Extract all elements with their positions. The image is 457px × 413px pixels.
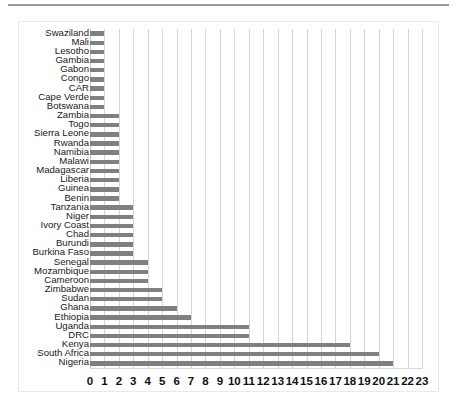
bar-row [90,233,422,237]
bar [90,242,133,246]
bar-row [90,205,422,209]
plot-area [90,29,422,368]
x-tick-label: 1 [101,374,107,388]
bar-row [90,224,422,228]
bar [90,114,119,118]
bar [90,160,119,164]
bar [90,96,104,100]
bar-row [90,77,422,81]
bar [90,196,119,200]
category-label: Nigeria [3,357,89,367]
bar-row [90,86,422,90]
x-tick-label: 7 [188,374,194,388]
bar-row [90,50,422,54]
bar [90,251,133,255]
bar [90,306,177,310]
bar [90,205,133,209]
bar-row [90,288,422,292]
bar-row [90,260,422,264]
bar [90,297,162,301]
bar [90,215,133,219]
x-tick-label: 22 [401,374,414,388]
bar-row [90,141,422,145]
x-tick-label: 17 [329,374,342,388]
bar [90,224,133,228]
bar [90,150,119,154]
x-tick-label: 15 [300,374,313,388]
x-tick-label: 12 [257,374,270,388]
bar-row [90,96,422,100]
bar-row [90,132,422,136]
bar [90,361,393,365]
bar [90,270,148,274]
bar-row [90,105,422,109]
bar-row [90,169,422,173]
x-tick-label: 20 [372,374,385,388]
bar-row [90,306,422,310]
bar [90,141,119,145]
bar [90,343,350,347]
x-tick-label: 14 [286,374,299,388]
x-tick-label: 4 [145,374,151,388]
category-axis-labels: SwazilandMaliLesothoGambiaGabonCongoCARC… [18,21,89,392]
bar-row [90,196,422,200]
bar-row [90,150,422,154]
x-tick-label: 9 [217,374,223,388]
bar [90,132,119,136]
x-tick-label: 11 [243,374,255,388]
bar [90,233,133,237]
bar [90,68,104,72]
bar [90,41,104,45]
x-tick-label: 18 [343,374,356,388]
bar-row [90,251,422,255]
bar-row [90,270,422,274]
bar-row [90,242,422,246]
bar-row [90,123,422,127]
axis-baseline [90,368,423,369]
bar [90,169,119,173]
bar-row [90,334,422,338]
bar [90,105,104,109]
x-tick-label: 19 [358,374,371,388]
bar [90,31,104,35]
bar [90,59,104,63]
bar [90,325,249,329]
bar-row [90,297,422,301]
x-tick-label: 3 [130,374,136,388]
bar [90,123,119,127]
bar [90,315,191,319]
bar-row [90,31,422,35]
x-tick-label: 16 [315,374,328,388]
bar-row [90,279,422,283]
x-tick-label: 5 [159,374,165,388]
bar-row [90,59,422,63]
x-tick-label: 6 [173,374,179,388]
bar-row [90,215,422,219]
bar-row [90,325,422,329]
bar-row [90,160,422,164]
gridline [422,29,423,368]
bar [90,288,162,292]
bar-row [90,361,422,365]
bar-row [90,315,422,319]
x-axis-tick-labels: 01234567891011121314151617181920212223 [90,374,423,390]
bar [90,187,119,191]
bar-row [90,187,422,191]
bar-row [90,343,422,347]
bar [90,334,249,338]
bar-row [90,68,422,72]
chart-page: 01234567891011121314151617181920212223 S… [0,0,457,413]
bar [90,77,104,81]
bar-row [90,178,422,182]
x-tick-label: 2 [116,374,122,388]
x-tick-label: 23 [416,374,429,388]
x-tick-label: 21 [387,374,400,388]
x-tick-label: 8 [202,374,208,388]
bar-row [90,114,422,118]
bar [90,178,119,182]
bar-row [90,352,422,356]
bar-row [90,41,422,45]
header-divider [8,4,449,6]
bar [90,279,148,283]
x-tick-label: 13 [271,374,284,388]
